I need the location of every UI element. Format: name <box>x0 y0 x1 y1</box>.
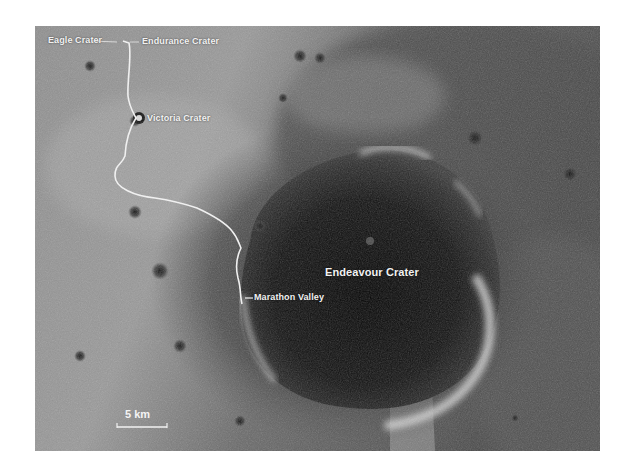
map-imagery <box>35 26 600 451</box>
endurance-crater-label: Endurance Crater <box>142 36 219 46</box>
endeavour-crater-label: Endeavour Crater <box>325 266 419 278</box>
victoria-crater-label: Victoria Crater <box>147 113 210 123</box>
scale-bar-label: 5 km <box>125 408 150 420</box>
mars-traverse-map: Eagle Crater Endurance Crater Victoria C… <box>35 26 600 451</box>
marathon-valley-label: Marathon Valley <box>254 292 324 302</box>
eagle-crater-label: Eagle Crater <box>48 35 102 45</box>
